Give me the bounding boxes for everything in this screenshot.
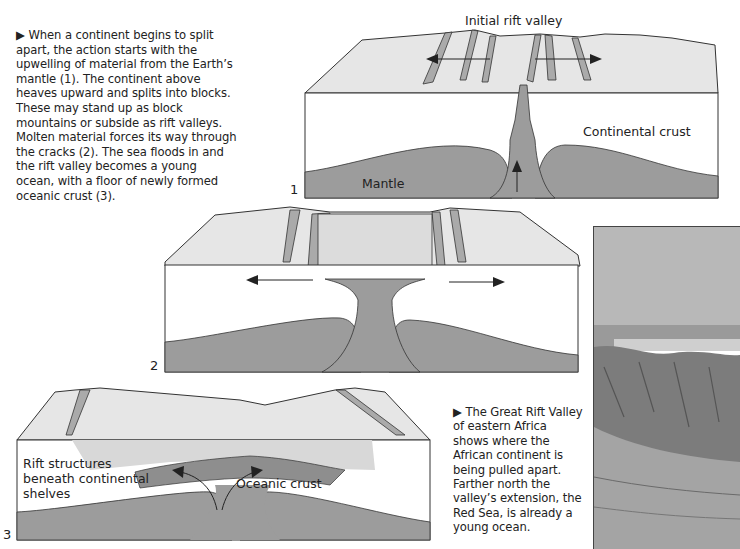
caption-marker-icon: ▶ <box>453 405 462 419</box>
label-rift-line-2: beneath continental <box>23 471 149 486</box>
label-rift-structures: Rift structures beneath continental shel… <box>23 456 149 501</box>
diagram-number-3: 3 <box>3 527 11 542</box>
photo-caption-text: The Great Rift Valley of eastern Africa … <box>453 405 583 534</box>
rift-valley-photo <box>593 226 740 549</box>
label-rift-line-3: shelves <box>23 486 149 501</box>
label-rift-line-1: Rift structures <box>23 456 149 471</box>
label-oceanic-crust: Oceanic crust <box>236 476 322 491</box>
photo-caption: ▶ The Great Rift Valley of eastern Afric… <box>453 405 583 535</box>
